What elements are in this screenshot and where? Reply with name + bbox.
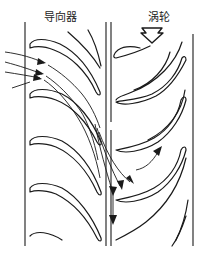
rotor-flow-arrow — [153, 146, 162, 156]
turbine-rotor-blades — [114, 42, 188, 246]
outlet-arrow-2 — [117, 180, 124, 190]
turbine-label: 涡轮 — [148, 12, 170, 24]
inlet-arrow-2 — [35, 69, 44, 76]
guide-vane-label: 导向器 — [44, 12, 77, 24]
blade-cascade-drawing — [0, 0, 204, 266]
turbine-stage-diagram: 导向器 涡轮 — [0, 0, 204, 266]
inlet-arrow-1 — [37, 58, 46, 65]
rotation-direction-arrow-icon — [141, 28, 163, 43]
outlet-arrow-4 — [109, 215, 117, 225]
outlet-arrow-1 — [109, 186, 117, 196]
